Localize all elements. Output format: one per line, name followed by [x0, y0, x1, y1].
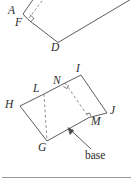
geometry-figure-root: A F D I N L H J M G base [0, 0, 133, 189]
bottom-edge-N-to-I [65, 75, 81, 83]
top-edge-A-to-B [23, 0, 41, 14]
vertex-label-H: H [5, 99, 13, 111]
bottom-edge-G-to-H [20, 106, 47, 141]
base-annotation-label: base [85, 150, 105, 162]
bottom-edge-I-to-J [81, 75, 107, 113]
vertex-label-J: J [110, 105, 115, 117]
top-parallelogram-group [23, 0, 133, 43]
vertex-label-I: I [76, 63, 80, 75]
top-edge-A-to-F [23, 14, 28, 20]
base-arrow-head-icon [68, 128, 74, 135]
vertex-label-D: D [51, 42, 59, 54]
top-right-angle-mark-icon [30, 15, 34, 22]
top-edge-F-to-D [28, 20, 58, 43]
bottom-altitude-dashed-L-G [44, 94, 47, 141]
vertex-label-N: N [53, 75, 61, 87]
bottom-edge-M-to-G [47, 118, 89, 142]
top-edge-D-to-C [58, 0, 133, 43]
bottom-edge-H-to-L [20, 94, 44, 106]
vertex-label-M: M [91, 116, 101, 128]
base-annotation-group [68, 128, 91, 149]
bottom-altitude-dashed-N-M [65, 83, 89, 118]
vertex-label-F: F [15, 17, 22, 29]
vertex-label-G: G [38, 142, 46, 154]
right-angle-mark-at-N-icon [63, 85, 68, 89]
vertex-label-L: L [33, 83, 39, 95]
vertex-label-A: A [8, 5, 15, 17]
